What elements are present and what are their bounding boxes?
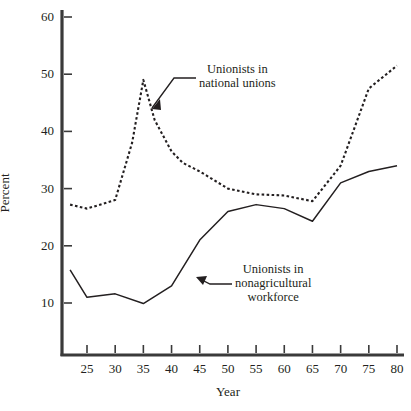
data-series-layer (70, 66, 397, 304)
y-tick-label: 10 (26, 295, 54, 311)
x-axis-tick-marks (87, 345, 397, 353)
y-tick-label: 20 (26, 238, 54, 254)
x-tick-label: 50 (221, 361, 234, 377)
annotation-label-nonagricultural-workforce: Unionists in nonagricultural workforce (235, 262, 311, 304)
y-axis-title: Percent (0, 174, 13, 213)
annotation-arrow-nonagricultural (196, 276, 207, 285)
x-tick-label: 45 (193, 361, 206, 377)
x-tick-label: 70 (334, 361, 347, 377)
y-tick-label: 60 (26, 9, 54, 25)
y-tick-label: 40 (26, 123, 54, 139)
annotation-arrow-national (152, 99, 161, 110)
y-tick-label: 50 (26, 66, 54, 82)
percent-unionized-line-chart: 102030405060 253035404550556065707580 Pe… (0, 0, 411, 411)
annotation-label-national-unions: Unionists in national unions (199, 62, 276, 90)
y-tick-label: 30 (26, 181, 54, 197)
x-tick-label: 30 (109, 361, 122, 377)
x-axis-title: Year (216, 384, 240, 400)
x-tick-label: 25 (81, 361, 94, 377)
x-tick-label: 40 (165, 361, 178, 377)
x-tick-label: 65 (306, 361, 319, 377)
x-tick-label: 60 (278, 361, 291, 377)
y-axis-tick-marks (64, 17, 72, 303)
x-tick-label: 75 (362, 361, 375, 377)
x-tick-label: 35 (137, 361, 150, 377)
x-tick-label: 80 (391, 361, 404, 377)
x-tick-label: 55 (250, 361, 263, 377)
